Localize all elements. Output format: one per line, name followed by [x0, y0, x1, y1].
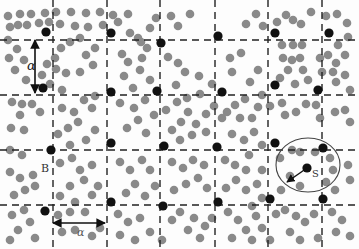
particle: [226, 54, 235, 63]
lattice-point: [213, 31, 222, 40]
particle: [184, 226, 193, 235]
particle: [245, 151, 254, 160]
particle: [84, 23, 93, 32]
particle: [80, 96, 89, 105]
particle: [130, 104, 139, 113]
particle: [259, 22, 268, 31]
particle: [54, 130, 63, 139]
particle: [167, 12, 176, 21]
particle: [66, 38, 75, 47]
particle: [91, 44, 100, 53]
lattice-point: [270, 28, 279, 37]
particle: [123, 124, 132, 133]
particle: [6, 23, 15, 32]
particle: [6, 168, 15, 177]
particle: [326, 154, 335, 163]
particle: [168, 216, 177, 225]
particle: [273, 18, 282, 27]
particle: [236, 114, 245, 123]
lattice-point: [318, 194, 327, 203]
particle: [253, 180, 262, 189]
particle: [231, 101, 240, 110]
particle: [329, 68, 338, 77]
particle: [71, 22, 80, 31]
particle: [80, 176, 89, 185]
particle: [58, 228, 67, 237]
particle: [179, 164, 188, 173]
particle: [168, 158, 177, 167]
particle: [240, 136, 249, 145]
particle: [45, 18, 54, 27]
particle: [41, 9, 50, 18]
particle: [296, 148, 305, 157]
particle: [21, 186, 30, 195]
particle: [137, 38, 146, 47]
particle: [89, 61, 98, 70]
particle: [346, 232, 355, 241]
particle: [120, 72, 129, 81]
particle: [8, 211, 17, 220]
particle: [91, 126, 100, 135]
particle: [194, 174, 203, 183]
particle: [237, 49, 246, 58]
particle: [252, 212, 261, 221]
particle: [296, 236, 305, 245]
particle: [31, 182, 40, 191]
particle: [94, 182, 103, 191]
particle: [162, 106, 171, 115]
particle: [10, 191, 19, 200]
particle: [28, 100, 37, 109]
particle: [96, 8, 105, 17]
particle: [346, 118, 355, 127]
particle: [292, 108, 301, 117]
radius-s-label: S: [312, 168, 319, 179]
particle: [88, 104, 97, 113]
particle: [322, 12, 331, 21]
particle: [341, 71, 350, 80]
particle: [328, 208, 337, 217]
particle: [246, 78, 255, 87]
particle: [146, 228, 155, 237]
lattice-point: [324, 28, 333, 37]
particle: [201, 222, 210, 231]
particle: [298, 41, 307, 50]
particle: [302, 100, 311, 109]
particle: [307, 8, 316, 17]
particle: [232, 176, 241, 185]
particle: [218, 114, 227, 123]
particle: [331, 186, 340, 195]
alpha-label: α: [27, 58, 36, 73]
particle: [14, 21, 23, 30]
lattice-point: [217, 87, 226, 96]
particle: [311, 148, 320, 157]
particle: [126, 29, 135, 38]
particle: [26, 218, 35, 227]
particle: [56, 20, 65, 29]
particle: [277, 186, 286, 195]
particle: [188, 131, 197, 140]
particle: [114, 210, 123, 219]
lattice-point: [212, 142, 221, 151]
particle: [314, 234, 323, 243]
particle: [16, 10, 25, 19]
particle: [146, 166, 155, 175]
particle: [64, 124, 73, 133]
particle: [266, 102, 275, 111]
particle: [278, 41, 287, 50]
particle: [136, 66, 145, 75]
particle: [5, 54, 14, 63]
particle: [346, 176, 355, 185]
particle: [312, 101, 321, 110]
particle: [203, 184, 212, 193]
particle: [334, 41, 343, 50]
particle: [66, 141, 75, 150]
particle: [329, 166, 338, 175]
particle: [88, 161, 97, 170]
particle: [234, 216, 243, 225]
particle: [82, 9, 91, 18]
particle: [43, 60, 52, 69]
particle: [170, 186, 179, 195]
particle: [96, 224, 105, 233]
particle: [338, 216, 347, 225]
particle: [91, 92, 100, 101]
